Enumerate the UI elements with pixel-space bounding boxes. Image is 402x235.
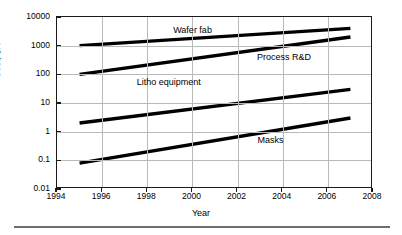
x-tick-label: 2006 bbox=[307, 192, 347, 201]
series-label-process-r-d: Process R&D bbox=[257, 53, 311, 62]
chart-figure: Cost, $K Year 1000010001001010.10.011994… bbox=[0, 0, 402, 235]
gridline-vertical bbox=[283, 17, 284, 187]
gridline-vertical bbox=[328, 17, 329, 187]
gridline-vertical bbox=[238, 17, 239, 187]
y-tick-mark bbox=[57, 74, 61, 75]
y-tick-label: 0.1 bbox=[0, 155, 50, 164]
gridline-vertical bbox=[192, 17, 193, 187]
x-tick-label: 1996 bbox=[81, 192, 121, 201]
gridline-horizontal bbox=[57, 74, 371, 75]
plot-area bbox=[56, 16, 372, 188]
y-tick-mark bbox=[57, 188, 61, 189]
y-tick-label: 10000 bbox=[0, 12, 50, 21]
y-tick-label: 10 bbox=[0, 98, 50, 107]
gridline-horizontal bbox=[57, 103, 371, 104]
series-label-masks: Masks bbox=[257, 136, 283, 145]
y-tick-mark bbox=[57, 45, 61, 46]
y-tick-mark bbox=[57, 160, 61, 161]
x-tick-label: 1998 bbox=[126, 192, 166, 201]
series-line-litho-equipment bbox=[80, 89, 351, 123]
gridline-vertical bbox=[147, 17, 148, 187]
x-tick-label: 1994 bbox=[36, 192, 76, 201]
gridline-vertical bbox=[102, 17, 103, 187]
y-tick-mark bbox=[57, 131, 61, 132]
x-tick-label: 2000 bbox=[171, 192, 211, 201]
y-tick-label: 1 bbox=[0, 127, 50, 136]
y-tick-label: 1000 bbox=[0, 41, 50, 50]
gridline-horizontal bbox=[57, 132, 371, 133]
figure-bottom-rule bbox=[14, 226, 390, 228]
x-tick-label: 2004 bbox=[262, 192, 302, 201]
x-tick-label: 2008 bbox=[352, 192, 392, 201]
series-label-wafer-fab: Wafer fab bbox=[173, 26, 212, 35]
x-axis-title: Year bbox=[0, 208, 402, 218]
y-tick-mark bbox=[57, 102, 61, 103]
series-line-masks bbox=[80, 118, 351, 163]
y-tick-label: 100 bbox=[0, 69, 50, 78]
gridline-horizontal bbox=[57, 46, 371, 47]
gridline-horizontal bbox=[57, 160, 371, 161]
series-label-litho-equipment: Litho equipment bbox=[137, 78, 201, 87]
x-tick-label: 2002 bbox=[217, 192, 257, 201]
y-tick-mark bbox=[57, 16, 61, 17]
